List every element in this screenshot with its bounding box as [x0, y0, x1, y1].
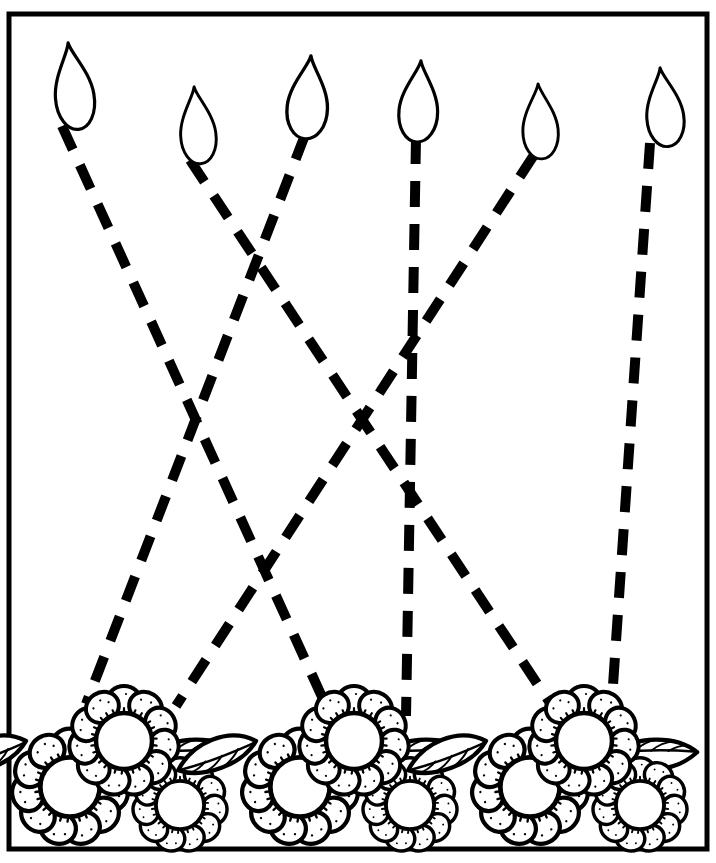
worksheet-page	[0, 0, 716, 863]
worksheet-canvas	[0, 0, 716, 863]
